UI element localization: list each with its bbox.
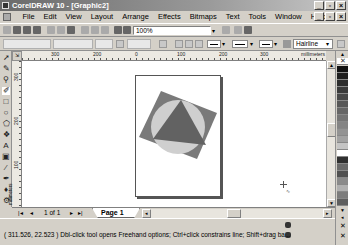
- object-position-field[interactable]: [3, 39, 51, 49]
- interactive-fill-tool-icon[interactable]: ▣: [2, 153, 10, 161]
- menu-view[interactable]: View: [61, 12, 86, 22]
- to-curves-icon[interactable]: [195, 40, 203, 48]
- doc-minimize-button[interactable]: _: [314, 12, 324, 21]
- menu-edit[interactable]: Edit: [39, 12, 61, 22]
- corel-online-icon[interactable]: [234, 26, 242, 34]
- menu-file[interactable]: File: [18, 12, 39, 22]
- color-swatch[interactable]: [337, 80, 348, 87]
- cut-icon[interactable]: [47, 26, 55, 34]
- color-swatch[interactable]: [337, 185, 348, 192]
- print-icon[interactable]: [33, 26, 41, 34]
- color-swatch[interactable]: [337, 157, 348, 164]
- color-swatch[interactable]: [337, 164, 348, 171]
- mirror-icon[interactable]: [159, 40, 167, 48]
- new-icon[interactable]: [3, 26, 11, 34]
- vertical-ruler[interactable]: 300 200 100 millimeters: [12, 61, 22, 207]
- application-launcher-icon[interactable]: [222, 26, 230, 34]
- start-arrowhead-selector[interactable]: [207, 40, 221, 48]
- next-page-button[interactable]: ▸: [70, 209, 73, 216]
- minimize-button[interactable]: _: [314, 1, 324, 10]
- menu-window[interactable]: Window: [271, 12, 307, 22]
- first-page-button[interactable]: |◂: [18, 209, 23, 216]
- menu-bitmaps[interactable]: Bitmaps: [185, 12, 221, 22]
- open-icon[interactable]: [13, 26, 21, 34]
- color-swatch[interactable]: [337, 129, 348, 136]
- ellipse-tool-icon[interactable]: ○: [2, 109, 10, 117]
- scroll-left-button[interactable]: ◂: [142, 209, 151, 218]
- color-swatch[interactable]: [337, 199, 348, 206]
- color-swatch[interactable]: [337, 122, 348, 129]
- color-swatch[interactable]: [337, 136, 348, 143]
- lock-ratio-icon[interactable]: [116, 40, 124, 48]
- doc-close-button[interactable]: ×: [336, 12, 346, 21]
- zoom-tool-icon[interactable]: ⚲: [2, 76, 10, 84]
- color-swatch[interactable]: [337, 115, 348, 122]
- import-icon[interactable]: [114, 26, 122, 34]
- end-arrowhead-dropdown-icon[interactable]: ▾: [274, 40, 277, 47]
- color-swatch[interactable]: [337, 73, 348, 80]
- horizontal-scroll-thumb[interactable]: [227, 209, 241, 218]
- rotation-angle-field[interactable]: [127, 39, 151, 49]
- last-page-button[interactable]: ▸|: [78, 209, 83, 216]
- palette-flyout-button[interactable]: ◂: [337, 214, 348, 220]
- menu-layout[interactable]: Layout: [86, 12, 118, 22]
- freehand-tool-icon[interactable]: ✐: [2, 87, 10, 95]
- color-swatch[interactable]: [337, 87, 348, 94]
- save-icon[interactable]: [23, 26, 31, 34]
- previous-page-button[interactable]: ◂: [30, 209, 33, 216]
- object-size-field[interactable]: [53, 39, 93, 49]
- redo-icon[interactable]: [101, 26, 109, 34]
- polygon-tool-icon[interactable]: ⬠: [2, 120, 10, 128]
- basic-shapes-tool-icon[interactable]: ❖: [2, 131, 10, 139]
- scale-factor-field[interactable]: [95, 39, 113, 49]
- color-swatch[interactable]: [337, 171, 348, 178]
- horizontal-scrollbar[interactable]: ◂ ▸: [142, 209, 332, 218]
- maximize-button[interactable]: ▫: [325, 1, 335, 10]
- curve-smoothing-icon[interactable]: [185, 40, 193, 48]
- export-icon[interactable]: [123, 26, 131, 34]
- rectangle-tool-icon[interactable]: □: [2, 98, 10, 106]
- line-style-selector[interactable]: [232, 40, 248, 48]
- horizontal-ruler[interactable]: 300 200 0 100 200 300 millimeters: [22, 51, 326, 61]
- vertical-scrollbar[interactable]: ▲ ▼: [326, 61, 335, 207]
- page-tab[interactable]: Page 1: [92, 208, 140, 218]
- eyedropper-tool-icon[interactable]: ⁄: [2, 164, 10, 172]
- color-swatch[interactable]: [337, 94, 348, 101]
- color-swatch[interactable]: [337, 66, 348, 73]
- document-icon[interactable]: [3, 13, 11, 21]
- color-swatch[interactable]: [337, 101, 348, 108]
- menu-arrange[interactable]: Arrange: [118, 12, 154, 22]
- zoom-level-input[interactable]: 100%: [133, 26, 211, 35]
- paste-icon[interactable]: [67, 26, 75, 34]
- undo-icon[interactable]: [81, 26, 89, 34]
- menu-tools[interactable]: Tools: [244, 12, 271, 22]
- copy-icon[interactable]: [57, 26, 65, 34]
- outline-width-dropdown-icon[interactable]: ▾: [326, 40, 329, 47]
- color-swatch[interactable]: [337, 150, 348, 157]
- ruler-origin[interactable]: ⇲: [12, 51, 22, 61]
- coreldraw-app-icon[interactable]: [2, 2, 9, 9]
- no-fill-swatch[interactable]: ✕: [337, 58, 348, 65]
- menu-effects[interactable]: Effects: [153, 12, 185, 22]
- color-swatch[interactable]: [337, 192, 348, 199]
- zoom-dropdown-icon[interactable]: ▾: [212, 27, 215, 34]
- wrap-text-icon[interactable]: [337, 40, 345, 48]
- text-tool-icon[interactable]: A: [2, 142, 10, 150]
- help-context-icon[interactable]: [244, 26, 252, 34]
- undo-dropdown-icon[interactable]: [91, 26, 99, 34]
- scroll-right-button[interactable]: ▸: [323, 209, 332, 218]
- menu-text[interactable]: Text: [221, 12, 244, 22]
- drawing-canvas[interactable]: ∿: [22, 61, 326, 207]
- drawing-shapes[interactable]: [139, 91, 217, 159]
- color-swatch[interactable]: [337, 178, 348, 185]
- pick-tool-icon[interactable]: ➚: [2, 54, 10, 62]
- close-button[interactable]: ×: [336, 1, 346, 10]
- outline-tool-icon[interactable]: ✒: [2, 175, 10, 183]
- color-swatch[interactable]: [337, 108, 348, 115]
- end-arrowhead-selector[interactable]: [259, 40, 273, 48]
- auto-close-icon[interactable]: [175, 40, 183, 48]
- palette-scroll-down-button[interactable]: ▼: [337, 207, 348, 213]
- shape-tool-icon[interactable]: ✎: [2, 65, 10, 73]
- color-swatch[interactable]: [337, 143, 348, 150]
- start-arrowhead-dropdown-icon[interactable]: ▾: [222, 40, 225, 47]
